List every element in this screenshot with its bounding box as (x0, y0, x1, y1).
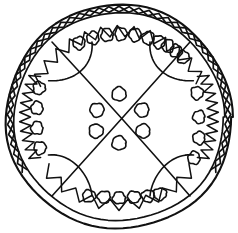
zigzag-left (20, 75, 41, 158)
circular-motif-drawing (0, 0, 238, 233)
figure-root: Circular ornamental motif Hand-drawn cir… (0, 0, 238, 233)
diagonal-lines-group (52, 42, 190, 196)
oval-row-left-oval-4 (34, 142, 47, 155)
oval-row-bottom-oval-3 (112, 192, 126, 204)
hatch-band-group (7, 6, 231, 172)
hatch-zigzag-a (7, 7, 231, 173)
oval-row-left-oval-3 (30, 121, 43, 134)
center-circle-1 (112, 86, 126, 101)
center-circle-3 (90, 103, 105, 117)
oval-row-right-oval-1 (191, 87, 203, 101)
center-circle-5 (134, 103, 149, 117)
hatch-zigzag-b (7, 6, 230, 169)
oval-row-bottom-oval-4 (127, 191, 141, 203)
oval-row-bottom-oval-2 (97, 191, 111, 203)
center-circle-6 (136, 123, 150, 138)
center-circle-2 (112, 135, 126, 149)
oval-row-right-oval-2 (192, 110, 204, 124)
oval-row-top-oval-4 (115, 27, 128, 40)
center-circle-4 (89, 124, 103, 138)
oval-row-top-oval-5 (129, 29, 142, 43)
oval-row-right-oval-3 (193, 131, 205, 145)
oval-row-left-oval-2 (31, 101, 43, 115)
